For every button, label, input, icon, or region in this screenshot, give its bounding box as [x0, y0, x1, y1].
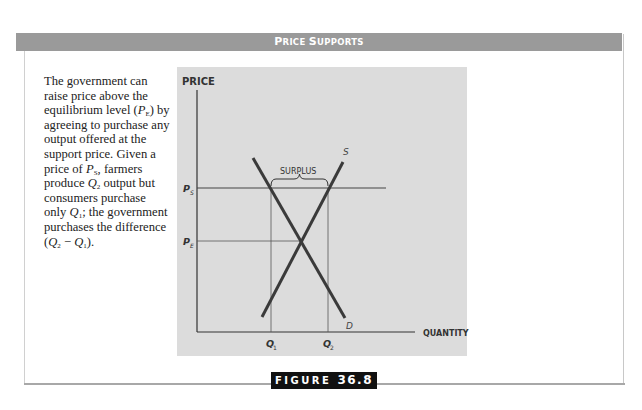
pe-label: P	[183, 236, 190, 247]
ps-label: P	[183, 183, 190, 194]
q1-sub: 1	[273, 344, 277, 351]
price-support-chart: PRICE QUANTITY SURPLUS S D P S P E Q 1 Q…	[0, 0, 642, 410]
q2-sub: 2	[330, 344, 334, 351]
surplus-label: SURPLUS	[280, 167, 316, 176]
figure-number-label: FIGURE 36.8	[271, 372, 377, 389]
pe-sub: E	[190, 242, 194, 249]
supply-label: S	[343, 147, 349, 157]
ps-sub: S	[190, 189, 194, 196]
demand-label: D	[346, 321, 353, 331]
y-axis-label: PRICE	[182, 76, 215, 87]
x-axis-label: QUANTITY	[423, 329, 469, 338]
